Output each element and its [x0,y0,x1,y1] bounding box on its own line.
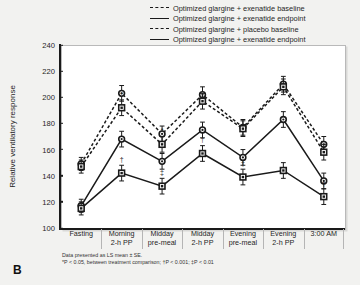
data-point-center [120,107,122,109]
legend-item: Optimized glargine + placebo baseline [150,24,358,35]
chart-series-layer: **†‡††† [61,45,344,228]
data-point-center [120,172,122,174]
chart-series [78,112,326,213]
data-point-center [80,165,82,167]
y-axis-title-text: Relative ventilatory response [8,85,17,188]
legend-key-solid-icon [150,15,169,23]
data-point-center [323,151,325,153]
data-point-center [161,160,163,162]
y-axis-tick-label: 140 [42,171,59,180]
legend-item-label: Optimized glargine + placebo baseline [173,25,299,34]
data-point-center [201,129,203,131]
data-point-center [282,169,284,171]
x-axis-category: 3:00 AM [304,230,344,252]
legend-key-dashed-icon [150,4,169,12]
y-axis-tick-label: 200 [42,93,59,102]
y-axis-tick-label: 120 [42,197,59,206]
significance-marker: ‡ [160,169,164,176]
data-point-center [282,118,284,120]
data-point-center [242,156,244,158]
data-point-center [121,138,123,140]
y-axis-tick-label: 240 [42,41,59,50]
data-point-center [161,143,163,145]
x-axis-category-label: 2-h PP [101,239,141,248]
x-axis-category-label: 2-h PP [182,239,222,248]
figure-footnotes: Data presented as LS mean ± SE. *P < 0.0… [62,252,342,265]
y-axis-tick-label: 100 [42,224,59,233]
footnote-line: *P < 0.05, between treatment comparison;… [62,259,342,266]
data-point-center [80,207,82,209]
legend-key-dashed-icon [150,25,169,33]
significance-marker: * [120,91,123,98]
significance-marker: † [241,160,245,167]
x-axis-category: Fasting [61,230,101,252]
y-axis-tick-label: 160 [42,145,59,154]
data-point-center [282,86,284,88]
x-axis-category-label: 2-h PP [263,239,303,248]
legend-key-solid-icon [150,36,169,44]
x-axis-category-label: 3:00 AM [304,230,344,239]
legend-item-label: Optimized glargine + exenatide endpoint [173,35,306,44]
legend-item: Optimized glargine + exenatide endpoint [150,35,358,46]
legend-item-label: Optimized glargine + exenatide baseline [173,4,305,13]
x-axis-category: Eveningpre-meal [223,230,263,252]
significance-marker: † [120,156,124,163]
figure-panel-b: Optimized glargine + exenatide baseline … [0,0,360,285]
x-axis-category: Midday2-h PP [182,230,222,252]
legend-item-label: Optimized glargine + exenatide endpoint [173,14,306,23]
x-axis-category: Evening2-h PP [263,230,303,252]
y-axis-tick-label: 220 [42,67,59,76]
footnote-line: Data presented as LS mean ± SE. [62,252,342,259]
y-axis-title: Relative ventilatory response [6,44,18,229]
data-point-center [242,127,244,129]
significance-marker: † [322,180,326,187]
y-axis-tick-label: 180 [42,119,59,128]
significance-marker: † [201,136,205,143]
legend-item: Optimized glargine + exenatide baseline [150,3,358,14]
chart-legend: Optimized glargine + exenatide baseline … [150,3,358,45]
x-axis-categories: FastingMorning2-h PPMiddaypre-mealMidday… [61,230,344,252]
data-point-center [242,176,244,178]
x-axis-category: Morning2-h PP [101,230,141,252]
legend-item: Optimized glargine + exenatide endpoint [150,14,358,25]
data-point-center [161,185,163,187]
data-point-center [201,100,203,102]
x-axis-category-label: pre-meal [223,239,263,248]
significance-marker: * [161,127,164,134]
data-point-center [323,195,325,197]
x-axis-category-label: Fasting [61,230,101,239]
panel-label: B [13,263,22,277]
data-point-center [201,152,203,154]
x-axis-category-label: pre-meal [142,239,182,248]
x-axis-category: Middaypre-meal [142,230,182,252]
